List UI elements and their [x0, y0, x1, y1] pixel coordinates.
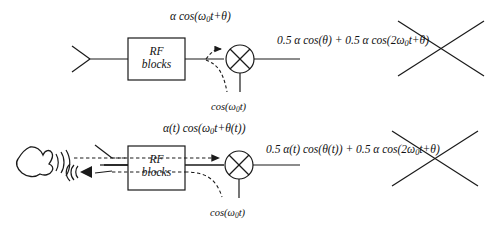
- input-formula-timevarying: α(t) cos(ω0t+θ(t)): [163, 122, 245, 136]
- input-formula-static: α cos(ω0t+θ): [170, 10, 231, 24]
- rf-blocks-label: RF blocks: [128, 153, 185, 179]
- reflection-arrow-icon: [80, 166, 92, 178]
- mixer-icon: [226, 45, 254, 73]
- antenna-icon: [72, 46, 128, 72]
- antenna-icon: [95, 145, 128, 173]
- rf-receiver-diagram: RF blocks α cos(ω0t+θ) cos(ω0t) 0.5 α co…: [0, 0, 489, 232]
- radio-wave-out-icon: [56, 150, 70, 176]
- lo-formula-static: cos(ω0t): [211, 101, 246, 114]
- lo-formula-timevarying: cos(ω0t): [210, 207, 245, 220]
- output-formula-static: 0.5 α cos(θ) + 0.5 α cos(2ω0t+θ): [277, 34, 429, 48]
- cross-out-icon: [398, 21, 484, 76]
- signal-flow-dashed: [206, 49, 227, 92]
- row-time-varying-case: [17, 131, 478, 198]
- hand-icon: [17, 147, 53, 177]
- mixer-icon: [225, 151, 253, 179]
- output-formula-timevarying: 0.5 α(t) cos(θ(t)) + 0.5 α cos(2ω0t+θ): [266, 143, 440, 157]
- cross-out-icon: [392, 131, 478, 186]
- rf-blocks-label: RF blocks: [128, 45, 185, 71]
